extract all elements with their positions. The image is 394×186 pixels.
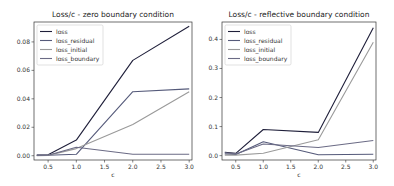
chart-title: Loss/c - reflective boundary condition: [229, 10, 370, 19]
y-tick-label: 0.2: [208, 94, 218, 101]
legend-label: loss: [244, 28, 256, 35]
chart-title: Loss/c - zero boundary condition: [52, 10, 174, 19]
x-tick-label: 0.5: [43, 163, 53, 170]
x-tick-label: 3.0: [368, 163, 378, 170]
y-tick-label: 0.06: [17, 66, 31, 73]
x-tick-label: 2.0: [128, 163, 138, 170]
chart-1: Loss/c - zero boundary condition0.51.01.…: [17, 10, 194, 178]
x-axis-label: c: [297, 171, 300, 178]
x-tick-label: 2.0: [313, 163, 323, 170]
figure: Loss/c - zero boundary condition0.51.01.…: [0, 0, 394, 186]
legend-label: loss_initial: [56, 46, 87, 54]
legend-label: loss_boundary: [56, 55, 100, 63]
series-line-loss-residual: [37, 89, 189, 155]
legend-label: loss_residual: [244, 37, 283, 45]
x-tick-label: 1.0: [258, 163, 268, 170]
legend-label: loss_boundary: [244, 55, 288, 63]
x-tick-label: 3.0: [184, 163, 194, 170]
x-tick-label: 0.5: [231, 163, 241, 170]
y-tick-label: 0.3: [208, 64, 218, 71]
y-tick-label: 0.00: [17, 152, 31, 159]
x-tick-label: 1.0: [72, 163, 82, 170]
x-tick-label: 2.5: [341, 163, 351, 170]
x-tick-label: 2.5: [156, 163, 166, 170]
y-tick-label: 0.4: [208, 35, 218, 42]
x-tick-label: 1.5: [286, 163, 296, 170]
y-tick-label: 0.1: [208, 123, 218, 130]
y-tick-label: 0.0: [208, 152, 218, 159]
y-tick-label: 0.02: [17, 123, 31, 130]
chart-2: Loss/c - reflective boundary condition0.…: [208, 10, 378, 178]
x-tick-label: 1.5: [100, 163, 110, 170]
y-tick-label: 0.04: [17, 95, 31, 102]
legend-label: loss_initial: [244, 46, 275, 54]
x-axis-label: c: [111, 171, 114, 178]
legend-label: loss_residual: [56, 37, 95, 45]
series-line-loss-initial: [37, 92, 189, 156]
series-line-loss-boundary: [225, 141, 373, 154]
legend-label: loss: [56, 28, 68, 35]
y-tick-label: 0.08: [17, 38, 31, 45]
